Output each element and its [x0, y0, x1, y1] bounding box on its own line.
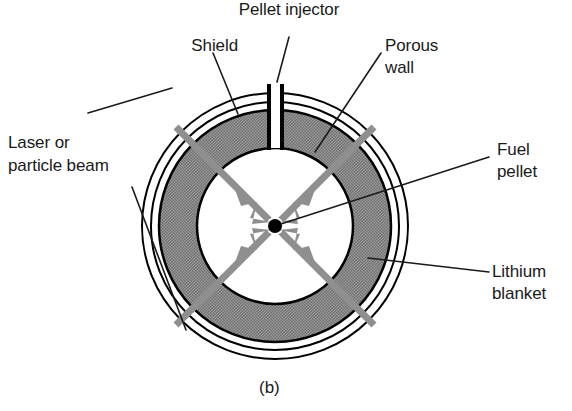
label-fuel-pellet-line1: Fuel — [497, 140, 530, 160]
label-porous-wall-line1: Porous — [385, 36, 438, 56]
label-laser-beam-line1: Laser or — [8, 133, 70, 153]
fusion-reactor-figure: Shield Pellet injector Porous wall Laser… — [0, 0, 572, 411]
lithium-blanket-ring — [0, 0, 572, 411]
label-porous-wall-line2: wall — [385, 58, 414, 78]
label-lithium-blanket-line1: Lithium — [492, 262, 546, 282]
label-laser-beam-line2: particle beam — [8, 156, 109, 176]
label-pellet-injector: Pellet injector — [215, 0, 363, 20]
label-lithium-blanket-line2: blanket — [492, 284, 546, 304]
fuel-pellet-dot-icon — [268, 219, 282, 233]
reactor-cross-section-diagram — [0, 0, 572, 411]
injector-tube-icon — [269, 84, 282, 150]
figure-caption: (b) — [259, 378, 280, 398]
label-fuel-pellet-line2: pellet — [497, 162, 537, 182]
label-shield: Shield — [148, 36, 238, 56]
